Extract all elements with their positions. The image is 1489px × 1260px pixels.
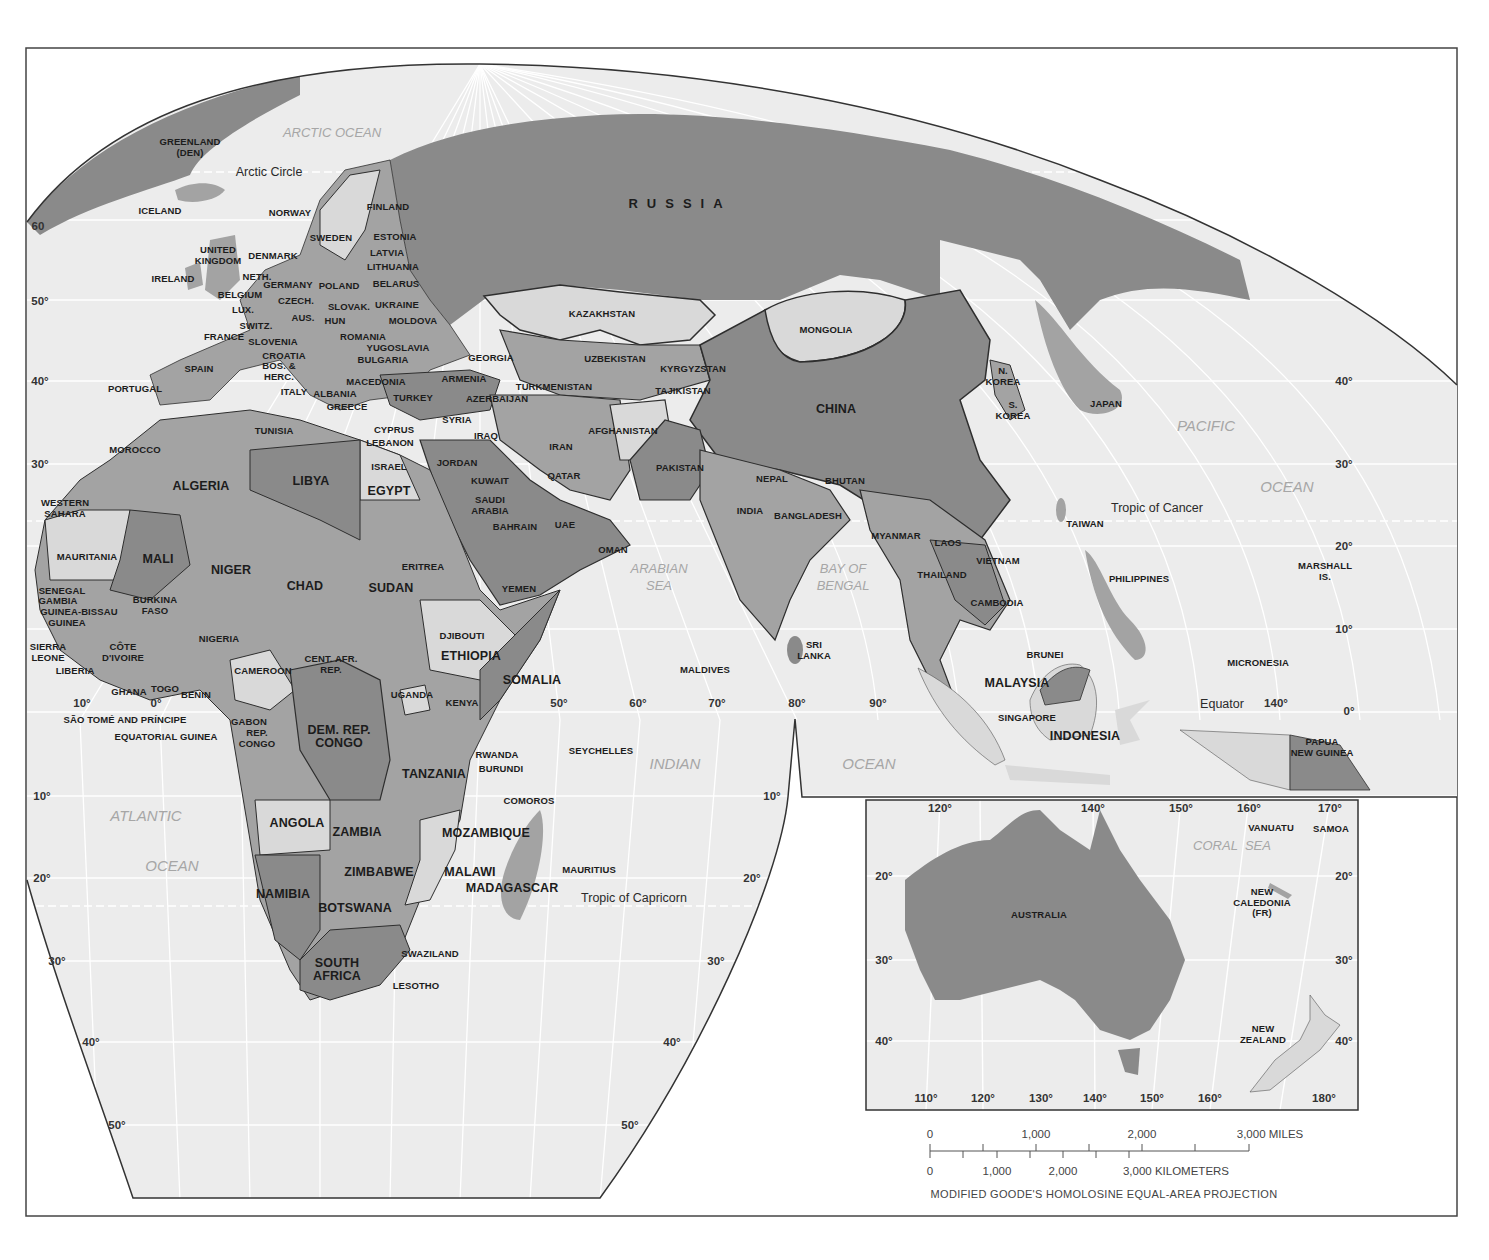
country-label: CYPRUS <box>374 425 414 436</box>
country-label: AUS. <box>291 313 314 324</box>
country-label: GAMBIA <box>38 596 77 607</box>
inset-longitude-label: 140° <box>1083 1092 1107 1104</box>
inset-latitude-label: 40° <box>875 1035 892 1047</box>
degree-label: 80° <box>788 697 805 709</box>
country-label: GEORGIA <box>468 353 514 364</box>
country-label: IRELAND <box>152 274 195 285</box>
country-label: DENMARK <box>248 251 297 262</box>
country-label: SIERRA LEONE <box>30 642 67 663</box>
country-label-large: MOZAMBIQUE <box>442 827 530 840</box>
country-label: LUX. <box>232 305 254 316</box>
water-body-label: OCEAN <box>842 754 895 773</box>
country-label: FRANCE <box>204 332 244 343</box>
country-label: NEPAL <box>756 474 788 485</box>
country-label: GUINEA <box>48 618 86 629</box>
degree-label: 50° <box>108 1119 125 1131</box>
country-label: HUN <box>325 316 346 327</box>
country-label: AZERBAIJAN <box>466 394 528 405</box>
degree-label: 30° <box>48 955 65 967</box>
country-label-large: SUDAN <box>369 582 414 595</box>
country-label: S. KOREA <box>996 400 1031 421</box>
country-label: NORWAY <box>269 208 311 219</box>
country-label: BENIN <box>181 690 211 701</box>
country-label: LEBANON <box>366 438 414 449</box>
degree-label: 20° <box>33 872 50 884</box>
reference-line-label: Tropic of Capricorn <box>581 891 687 905</box>
country-label: MICRONESIA <box>1227 658 1289 669</box>
water-body-label: CORAL SEA <box>1193 837 1271 854</box>
water-body-label: ARCTIC OCEAN <box>283 124 381 141</box>
country-label: TAIWAN <box>1066 519 1103 530</box>
degree-label: 40° <box>1335 375 1352 387</box>
country-label: POLAND <box>319 281 360 292</box>
country-label: UAE <box>555 520 575 531</box>
country-label: ALBANIA <box>313 389 356 400</box>
inset-longitude-label: 160° <box>1237 802 1261 814</box>
country-label: PORTUGAL <box>108 384 162 395</box>
country-label: ICELAND <box>139 206 182 217</box>
country-label: MARSHALL IS. <box>1298 561 1352 582</box>
country-label: TOGO <box>151 684 179 695</box>
country-label: NIGERIA <box>199 634 239 645</box>
country-label-large: ALGERIA <box>173 480 230 493</box>
degree-label: 30° <box>707 955 724 967</box>
country-label: MACEDONIA <box>346 377 405 388</box>
inset-longitude-label: 150° <box>1169 802 1193 814</box>
degree-label: 140° <box>1264 697 1288 709</box>
degree-label: 0° <box>1344 705 1355 717</box>
country-label: TURKEY <box>393 393 433 404</box>
degree-label: 10° <box>763 790 780 802</box>
country-label-large: BOTSWANA <box>318 902 392 915</box>
country-label: ARMENIA <box>441 374 486 385</box>
degree-label: 50° <box>621 1119 638 1131</box>
country-label: TAJIKISTAN <box>655 386 711 397</box>
country-label: RWANDA <box>475 750 518 761</box>
country-label: LESOTHO <box>393 981 440 992</box>
country-label: CÔTE D'IVOIRE <box>102 642 144 663</box>
country-label: N. KOREA <box>986 366 1021 387</box>
inset-longitude-label: 180° <box>1312 1092 1336 1104</box>
country-label: LIBERIA <box>56 666 95 677</box>
country-label: SWAZILAND <box>401 949 458 960</box>
inset-longitude-label: 140° <box>1081 802 1105 814</box>
country-label: UZBEKISTAN <box>584 354 646 365</box>
country-label: DJIBOUTI <box>439 631 484 642</box>
land-taiwan <box>1056 498 1066 522</box>
inset-longitude-label: 110° <box>914 1092 937 1104</box>
country-label: BAHRAIN <box>493 522 538 533</box>
degree-label: 20° <box>743 872 760 884</box>
country-label: BOS. & HERC. <box>262 361 295 382</box>
country-label: KYRGYZSTAN <box>660 364 726 375</box>
inset-latitude-label: 40° <box>1335 1035 1352 1047</box>
inset-longitude-label: 170° <box>1318 802 1342 814</box>
country-label: AFGHANISTAN <box>588 426 658 437</box>
country-label: MOLDOVA <box>389 316 438 327</box>
country-label-large: INDONESIA <box>1050 730 1120 743</box>
country-label: JORDAN <box>437 458 478 469</box>
country-label: SAMOA <box>1313 824 1349 835</box>
country-label: CAMEROON <box>234 666 291 677</box>
degree-label: 10° <box>73 697 90 709</box>
scale-km-label: 0 <box>927 1165 933 1177</box>
country-label: SLOVENIA <box>248 337 297 348</box>
country-label-large: SOUTH AFRICA <box>313 957 361 983</box>
scale-miles-label: 2,000 <box>1128 1128 1157 1140</box>
inset-latitude-label: 30° <box>1335 954 1352 966</box>
country-label: YEMEN <box>502 584 536 595</box>
inset-latitude-label: 20° <box>875 870 892 882</box>
country-label: BURKINA FASO <box>133 595 178 616</box>
country-label: BELARUS <box>373 279 420 290</box>
country-label-large: NIGER <box>211 564 251 577</box>
country-label: LATVIA <box>370 248 404 259</box>
country-label-large: LIBYA <box>293 475 330 488</box>
degree-label: 70° <box>708 697 725 709</box>
degree-label: 30° <box>1335 458 1352 470</box>
country-label: VIETNAM <box>976 556 1019 567</box>
country-label: UKRAINE <box>375 300 419 311</box>
country-label: SINGAPORE <box>998 713 1056 724</box>
country-label: UGANDA <box>391 690 433 701</box>
scale-miles-label: 3,000 MILES <box>1237 1128 1303 1140</box>
water-body-label: PACIFIC <box>1177 416 1235 435</box>
inset-longitude-label: 130° <box>1029 1092 1053 1104</box>
country-label-large: NAMIBIA <box>256 888 310 901</box>
